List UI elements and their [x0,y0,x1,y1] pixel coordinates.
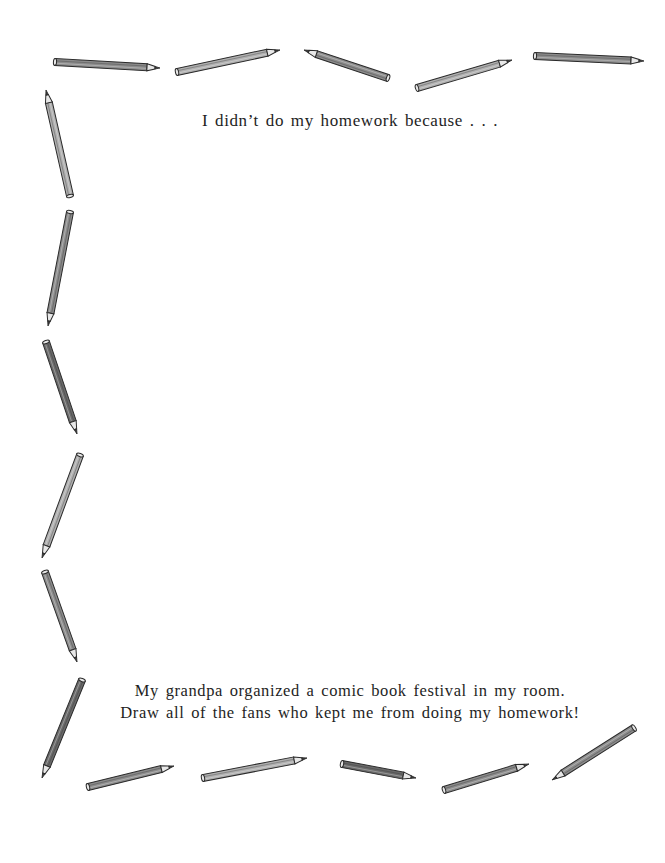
pencil-icon [201,755,308,782]
pencil-icon [45,210,74,327]
pencil-icon [340,760,417,781]
worksheet-heading: I didn’t do my homework because . . . [0,111,665,131]
pencil-icon [441,761,530,794]
pencil-icon [39,452,84,559]
instruction-line-1: My grandpa organized a comic book festiv… [0,680,665,702]
pencil-icon [533,52,644,64]
pencil-icon [43,89,74,198]
pencil-icon [550,724,637,783]
pencil-icon [414,57,513,92]
pencil-icon [42,339,80,435]
pencil-icon [175,47,281,76]
worksheet-page: I didn’t do my homework because . . . My… [0,0,665,863]
pencil-icon [53,58,160,71]
pencil-icon [303,47,391,82]
instruction-line-2: Draw all of the fans who kept me from do… [0,702,665,724]
pencil-icon [86,763,175,791]
drawing-area[interactable] [100,150,640,660]
drawing-instructions: My grandpa organized a comic book festiv… [0,680,665,724]
pencil-icon [41,569,80,663]
